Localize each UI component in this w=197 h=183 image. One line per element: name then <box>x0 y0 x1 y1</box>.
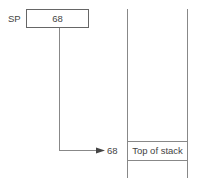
sp-register-box: 68 <box>26 9 89 28</box>
pointer-line-vertical <box>59 28 60 150</box>
arrowhead-icon <box>96 146 105 155</box>
sp-register-value: 68 <box>52 13 63 24</box>
stack-top-cell-label: Top of stack <box>132 145 183 156</box>
pointer-target-address: 68 <box>107 146 118 156</box>
stack-cell-bottom-divider <box>127 160 188 161</box>
pointer-line-horizontal <box>59 150 101 151</box>
stack-top-cell: Top of stack <box>128 141 187 160</box>
sp-register-label: SP <box>8 14 21 24</box>
stack-right-border <box>187 9 188 178</box>
